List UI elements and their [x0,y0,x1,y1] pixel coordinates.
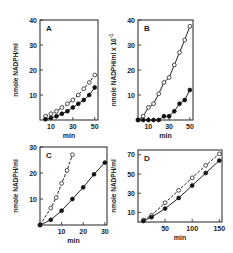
x-tick-label: 50 [161,225,169,232]
y-axis-label: nmole NADPH/ml [110,159,117,213]
x-tick-label: 30 [165,123,173,130]
open-circle-marker [204,163,208,167]
x-tick-label: 100 [186,225,198,232]
panel-label: A [46,24,52,33]
filled-circle-marker [157,118,161,122]
y-axis-label: nmole NADPH/ml [12,43,19,97]
x-tick-label: 50 [91,123,99,130]
y-axis-label: nmole NADPH/ml x 10-1 [108,34,117,107]
open-circle-marker [76,93,80,97]
filled-circle-marker [49,218,53,222]
x-tick-label: 50 [186,123,194,130]
filled-circle-marker [82,98,86,102]
filled-circle-marker [150,215,154,219]
panel-c: C102030102030minnmole NADPH/ml [12,144,109,245]
filled-circle-marker [81,185,85,189]
filled-circle-marker [93,86,97,90]
open-circle-marker [49,206,53,210]
filled-circle-marker [178,102,182,106]
open-circle-marker [60,106,64,110]
filled-circle-marker [172,109,176,113]
x-axis-label: min [67,237,79,244]
filled-circle-marker [141,118,145,122]
filled-circle-marker [60,209,64,213]
y-tick-label: 40 [127,17,135,24]
filled-circle-marker [60,112,64,116]
filled-circle-marker [38,223,42,227]
panel-label: B [144,24,150,33]
open-circle-marker [167,76,171,80]
open-circle-marker [178,51,182,55]
series-line [138,26,190,120]
series-line [40,163,105,225]
x-axis-label: min [174,234,186,241]
filled-circle-marker [152,118,156,122]
open-circle-marker [93,73,97,77]
filled-circle-marker [49,116,53,120]
open-circle-marker [87,81,91,85]
x-axis-label: min [159,132,171,139]
y-tick-label: 20 [29,67,37,74]
y-tick-label: 20 [127,67,135,74]
y-tick-label: 30 [29,144,37,151]
y-tick-label: 30 [127,190,135,197]
filled-circle-marker [71,197,75,201]
filled-circle-marker [177,196,181,200]
x-tick-label: 30 [69,123,77,130]
y-tick-label: 50 [127,171,135,178]
plot-frame [138,20,193,120]
panel-a: A10203040103050minnmole NADPH/ml [12,17,99,140]
open-circle-marker [183,38,187,42]
figure-canvas: A10203040103050minnmole NADPH/mlB1020304… [0,0,233,253]
filled-circle-marker [162,114,166,118]
open-circle-marker [217,152,221,156]
x-tick-label: 10 [144,123,152,130]
open-circle-marker [157,92,161,96]
x-tick-label: 10 [58,228,66,235]
open-circle-marker [49,112,53,116]
open-circle-marker [172,63,176,67]
y-tick-label: 20 [29,170,37,177]
open-circle-marker [188,24,192,28]
filled-circle-marker [190,184,194,188]
filled-circle-marker [217,159,221,163]
y-tick-label: 10 [127,92,135,99]
open-circle-marker [71,153,75,157]
filled-circle-marker [65,109,69,113]
filled-circle-marker [204,171,208,175]
open-circle-marker [162,81,166,85]
filled-circle-marker [188,88,192,92]
filled-circle-marker [103,161,107,165]
filled-circle-marker [163,207,167,211]
filled-circle-marker [71,106,75,110]
filled-circle-marker [142,219,146,223]
filled-circle-marker [92,172,96,176]
open-circle-marker [60,182,64,186]
panel-label: D [144,154,150,163]
y-tick-label: 10 [29,196,37,203]
open-circle-marker [65,169,69,173]
open-circle-marker [141,114,145,118]
open-circle-marker [71,98,75,102]
open-circle-marker [190,176,194,180]
x-tick-label: 10 [47,123,55,130]
open-circle-marker [177,188,181,192]
x-axis-label: min [63,132,75,139]
plot-frame [138,150,222,222]
x-tick-label: 20 [79,228,87,235]
filled-circle-marker [167,114,171,118]
filled-circle-marker [87,93,91,97]
open-circle-marker [54,196,58,200]
filled-circle-marker [55,114,59,118]
panel-b: B10203040103050minnmole NADPH/ml x 10-1 [108,17,194,140]
open-circle-marker [65,102,69,106]
filled-circle-marker [183,98,187,102]
open-circle-marker [163,201,167,205]
x-tick-label: 30 [101,228,109,235]
x-tick-label: 150 [213,225,225,232]
y-axis-label: nmole NADPH/ml [12,159,19,213]
filled-circle-marker [44,117,48,121]
filled-circle-marker [146,118,150,122]
series-line [40,155,72,225]
filled-circle-marker [76,102,80,106]
